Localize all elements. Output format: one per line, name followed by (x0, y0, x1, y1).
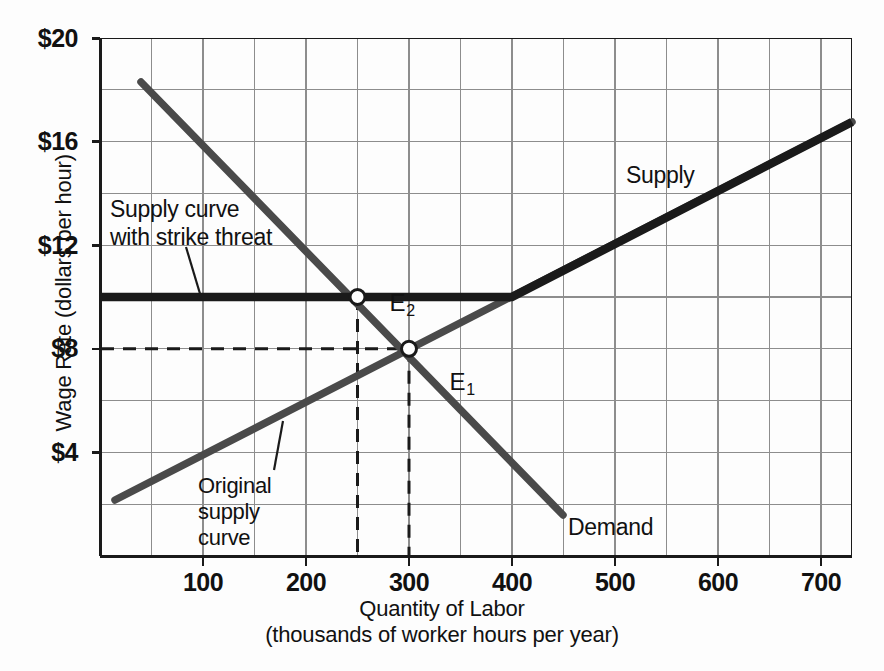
x-axis-title-sub: (thousands of worker hours per year) (0, 622, 884, 648)
annotation-demand-label: Demand (568, 514, 653, 541)
x-axis-title: Quantity of Labor (thousands of worker h… (0, 596, 884, 647)
marker-label-e1-sub: 1 (466, 381, 475, 398)
y-axis-title: Wage Rate (dollars per hour) (51, 133, 77, 453)
marker-label-e1-base: E (449, 368, 465, 395)
marker-label-e2: E2 (364, 261, 414, 344)
x-tick-label-700: 700 (781, 568, 861, 597)
annotation-original-supply-line1: Original (198, 473, 271, 499)
marker-e2-dot (350, 290, 365, 305)
x-tick-label-200: 200 (266, 568, 346, 597)
y-tick-label-20: $20 (0, 24, 78, 53)
x-tick-label-500: 500 (575, 568, 655, 597)
x-tick-label-300: 300 (369, 568, 449, 597)
leader-line-strike-threat (186, 247, 201, 297)
marker-label-e2-sub: 2 (406, 302, 415, 319)
x-tick-label-100: 100 (163, 568, 243, 597)
chart-figure: $20 $16 $12 $8 $4 Wage Rate (dollars per… (0, 0, 884, 671)
annotation-supply-strike-threat-line1: Supply curve (110, 196, 239, 223)
x-tick-label-400: 400 (472, 568, 552, 597)
marker-label-e2-base: E (389, 289, 405, 316)
annotation-original-supply-line3: curve (198, 525, 250, 551)
annotation-supply-strike-threat-line2: with strike threat (110, 224, 272, 251)
annotation-supply-label: Supply (626, 162, 695, 189)
x-axis-title-main: Quantity of Labor (0, 596, 884, 622)
x-tick-label-600: 600 (678, 568, 758, 597)
leader-line-original-supply (274, 421, 283, 470)
y-axis-title-text: Wage Rate (dollars per hour) (51, 154, 76, 431)
annotation-original-supply-line2: supply (198, 499, 260, 525)
marker-label-e1: E1 (424, 340, 474, 423)
